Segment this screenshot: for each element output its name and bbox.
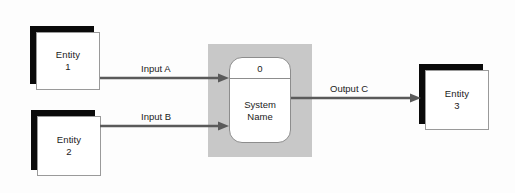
entity-1-label-line-1: Entity (56, 49, 80, 61)
process-id: 0 (230, 58, 290, 79)
entity-3-face: Entity 3 (425, 70, 489, 130)
entity-2-label-line-1: Entity (57, 134, 81, 146)
flow-input-b-label: Input B (141, 111, 171, 122)
process-box[interactable]: 0 System Name (229, 57, 291, 143)
entity-box-2[interactable]: Entity 2 (31, 110, 95, 170)
diagram-canvas: Entity 1 Entity 2 Entity 3 0 System Name (0, 0, 515, 193)
flow-input-a-label: Input A (141, 63, 171, 74)
process-name-line-1: System (244, 99, 276, 111)
entity-3-label-line-2: 3 (454, 100, 459, 112)
entity-box-1[interactable]: Entity 1 (30, 26, 94, 84)
entity-1-label-line-2: 1 (65, 61, 70, 73)
process-name: System Name (230, 79, 290, 142)
entity-2-label-line-2: 2 (66, 146, 71, 158)
flow-output-c-label: Output C (330, 83, 368, 94)
entity-2-face: Entity 2 (37, 116, 101, 176)
entity-box-3[interactable]: Entity 3 (419, 64, 483, 124)
process-name-line-2: Name (247, 111, 272, 123)
entity-1-face: Entity 1 (36, 32, 100, 90)
entity-3-label-line-1: Entity (445, 88, 469, 100)
